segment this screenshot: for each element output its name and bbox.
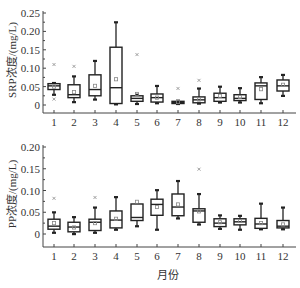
x-tick-label: 7 <box>175 116 181 128</box>
y-tick-label: 0 <box>35 228 41 240</box>
box-month-1 <box>48 197 60 234</box>
x-tick-label: 3 <box>92 116 98 128</box>
x-tick-label: 8 <box>196 250 202 262</box>
iqr-box <box>172 194 184 216</box>
box-month-5 <box>131 53 143 105</box>
x-tick-label: 1 <box>51 250 57 262</box>
figure: 00.050.100.150.200.25123456789101112 00.… <box>0 0 300 288</box>
x-tick-label: 9 <box>217 250 223 262</box>
whisker-cap-low <box>72 233 76 235</box>
whisker-cap-high <box>93 60 97 62</box>
x-tick-label: 12 <box>278 116 289 128</box>
iqr-box <box>89 75 101 96</box>
box-month-7 <box>172 87 184 105</box>
y-tick-label: 0.20 <box>21 141 41 153</box>
whisker-cap-low <box>197 223 201 225</box>
srp-y-axis-label: SRP浓度/(mg/L) <box>5 22 19 98</box>
whisker-cap-high <box>197 193 201 195</box>
whisker-cap-high <box>176 180 180 182</box>
box-month-11 <box>255 76 267 104</box>
whisker-cap-low <box>281 95 285 97</box>
box-month-9 <box>214 86 226 104</box>
whisker-cap-low <box>135 225 139 227</box>
box-month-8 <box>193 79 205 105</box>
whisker-cap-high <box>259 203 263 205</box>
box-month-9 <box>214 214 226 230</box>
x-tick-label: 2 <box>71 116 77 128</box>
y-tick-label: 0.05 <box>21 206 41 218</box>
outlier-marker <box>53 197 56 200</box>
whisker-cap-high <box>93 206 97 208</box>
box-month-10 <box>234 215 246 231</box>
box-month-3 <box>89 60 101 101</box>
outlier-marker <box>136 53 139 56</box>
whisker-cap-low <box>93 232 97 234</box>
x-tick-label: 4 <box>113 116 119 128</box>
whisker-cap-high <box>281 74 285 76</box>
x-tick-label: 10 <box>235 116 247 128</box>
box-month-2 <box>68 216 80 235</box>
whisker-cap-low <box>238 101 242 103</box>
box-month-6 <box>151 189 163 231</box>
iqr-box <box>151 199 163 215</box>
y-tick-label: 0.10 <box>21 62 41 74</box>
outlier-marker <box>198 79 201 82</box>
whisker-cap-high <box>218 86 222 88</box>
box-plot-figure: 00.050.100.150.200.25123456789101112 00.… <box>0 0 300 288</box>
box-month-3 <box>89 196 101 234</box>
whisker-cap-low <box>93 98 97 100</box>
x-tick-label: 8 <box>196 116 202 128</box>
x-tick-label: 11 <box>256 250 267 262</box>
box-month-10 <box>234 87 246 104</box>
pp-y-axis-label: PP浓度/(mg/L) <box>5 159 19 228</box>
outlier-marker <box>198 168 201 171</box>
whisker-cap-low <box>176 217 180 219</box>
whisker-cap-high <box>155 85 159 87</box>
box-month-12 <box>277 206 289 230</box>
y-tick-label: 0.20 <box>21 25 41 37</box>
whisker-cap-high <box>238 87 242 89</box>
whisker-cap-high <box>259 76 263 78</box>
y-tick-label: 0.05 <box>21 81 41 93</box>
whisker-cap-high <box>72 216 76 218</box>
x-axis-label: 月份 <box>157 269 179 281</box>
iqr-box <box>48 84 60 90</box>
box-month-4 <box>110 196 122 231</box>
box-month-2 <box>68 65 80 103</box>
srp-panel: 00.050.100.150.200.25123456789101112 <box>21 7 296 128</box>
whisker-cap-low <box>72 101 76 103</box>
whisker-cap-high <box>155 189 159 191</box>
whisker-cap-high <box>114 196 118 198</box>
iqr-box <box>68 85 80 98</box>
x-tick-label: 10 <box>235 250 247 262</box>
x-tick-label: 4 <box>113 250 119 262</box>
whisker-cap-low <box>218 228 222 230</box>
pp-panel: 00.050.100.150.20123456789101112 <box>21 141 296 262</box>
whisker-cap-high <box>197 87 201 89</box>
x-tick-label: 9 <box>217 116 223 128</box>
y-tick-label: 0.15 <box>21 44 41 56</box>
outlier-marker <box>73 65 76 68</box>
x-tick-label: 6 <box>154 250 160 262</box>
box-month-6 <box>151 85 163 104</box>
whisker-cap-low <box>238 229 242 231</box>
whisker-cap-high <box>218 214 222 216</box>
whisker-cap-low <box>155 229 159 231</box>
whisker-cap-low <box>114 229 118 231</box>
y-tick-label: 0.10 <box>21 185 41 197</box>
x-tick-label: 6 <box>154 116 160 128</box>
iqr-box <box>110 47 122 103</box>
whisker-cap-high <box>52 211 56 213</box>
whisker-cap-high <box>114 21 118 23</box>
whisker-cap-low <box>52 232 56 234</box>
box-month-11 <box>255 203 267 231</box>
whisker-cap-low <box>135 103 139 105</box>
outlier-marker <box>177 87 180 90</box>
x-tick-label: 1 <box>51 116 57 128</box>
whisker-cap-low <box>52 94 56 96</box>
whisker-cap-high <box>281 206 285 208</box>
box-month-8 <box>193 168 205 226</box>
iqr-box <box>48 219 60 229</box>
whisker-cap-high <box>72 75 76 77</box>
outlier-marker <box>53 98 56 101</box>
